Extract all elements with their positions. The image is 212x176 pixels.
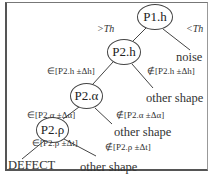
edge-label-notin-p2rho: ∉[P2.ρ ±Δt]: [105, 143, 151, 152]
leaf-other-shape-1: other shape: [146, 92, 203, 105]
edge-label-in-p2alpha: ∈[P2.α ±Δα]: [27, 111, 75, 120]
leaf-noise: noise: [176, 51, 202, 64]
node-p1-h: P1.h: [137, 4, 173, 30]
edge-label-notin-p2h: ∉[P2.h ±Δh]: [147, 67, 195, 76]
leaf-other-shape-2: other shape: [114, 126, 171, 139]
edge-label-in-p2rho: ∈[P2.ρ ±Δt]: [32, 139, 78, 148]
edge-label-in-p2h: ∈[P2.h ±Δh]: [47, 67, 95, 76]
node-p2-h: P2.h: [107, 39, 141, 65]
node-p2-alpha: P2.α: [70, 83, 103, 109]
leaf-defect: DEFECT: [8, 159, 55, 172]
edge-label-notin-p2alpha: ∉[P2.α ±Δα]: [116, 111, 164, 120]
edge-label-lt-th: <Th: [186, 24, 203, 34]
leaf-other-shape-3: other shape: [80, 161, 137, 174]
edge-label-gt-th: >Th: [97, 24, 114, 34]
